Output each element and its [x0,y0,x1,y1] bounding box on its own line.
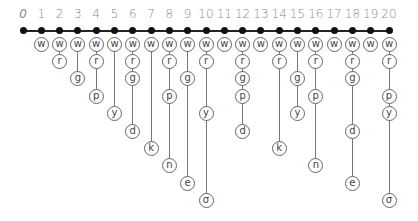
tick-label: 17 [324,7,344,21]
tick-dot [312,27,319,34]
letter-bubble: k [272,141,287,156]
letter-bubble: r [52,54,67,69]
letter-bubble: r [345,54,360,69]
tick-dot [166,27,173,34]
letter-bubble: r [89,54,104,69]
letter-bubble: w [125,37,140,52]
letter-bubble: y [107,106,122,121]
tick-dot [367,27,374,34]
letter-bubble: w [217,37,232,52]
letter-bubble: r [199,54,214,69]
column-connector [151,44,152,148]
letter-bubble: w [345,37,360,52]
tick-dot [203,27,210,34]
tick-dot [239,27,246,34]
tick-dot [74,27,81,34]
letter-bubble: r [235,54,250,69]
letter-bubble: w [144,37,159,52]
letter-bubble: d [235,124,250,139]
letter-bubble: d [345,124,360,139]
tick-label: 3 [68,7,88,21]
tick-label: 6 [123,7,143,21]
tick-dot [56,27,63,34]
letter-bubble: e [345,176,360,191]
column-connector [187,44,188,183]
letter-bubble: w [52,37,67,52]
tick-label: 20 [379,7,399,21]
letter-bubble: d [125,124,140,139]
letter-bubble: n [308,158,323,173]
tick-label: 9 [178,7,198,21]
letter-bubble: y [290,106,305,121]
tick-label: 7 [141,7,161,21]
letter-bubble: p [162,89,177,104]
tick-dot [257,27,264,34]
letter-bubble: w [70,37,85,52]
letter-bubble: n [162,158,177,173]
letter-bubble: w [34,37,49,52]
tick-label: 11 [214,7,234,21]
tick-dot [93,27,100,34]
tick-label: 4 [86,7,106,21]
tick-label: 5 [105,7,125,21]
letter-bubble: p [235,89,250,104]
tick-dot [294,27,301,34]
letter-bubble: w [308,37,323,52]
letter-bubble: p [308,89,323,104]
letter-bubble: r [125,54,140,69]
letter-bubble: y [382,106,397,121]
tick-dot [221,27,228,34]
tick-label: 14 [269,7,289,21]
letter-bubble: w [89,37,104,52]
tick-dot [386,27,393,34]
letter-bubble: p [382,89,397,104]
letter-bubble: w [327,37,342,52]
letter-bubble: k [144,141,159,156]
letter-bubble: w [382,37,397,52]
column-connector [114,44,115,114]
tick-label: 16 [306,7,326,21]
letter-bubble: w [272,37,287,52]
letter-bubble: w [235,37,250,52]
letter-bubble: r [272,54,287,69]
letter-bubble: g [180,71,195,86]
tick-dot [20,27,27,34]
letter-bubble: r [308,54,323,69]
number-line-diagram: 01234567891011121314151617181920wwrwgwrp… [0,0,418,221]
tick-label: 12 [233,7,253,21]
tick-label: 2 [50,7,70,21]
tick-dot [276,27,283,34]
letter-bubble: w [363,37,378,52]
letter-bubble: w [180,37,195,52]
letter-bubble: g [235,71,250,86]
tick-dot [148,27,155,34]
letter-bubble: p [89,89,104,104]
letter-bubble: r [162,54,177,69]
tick-dot [331,27,338,34]
letter-bubble: r [382,54,397,69]
tick-label: 19 [361,7,381,21]
tick-label: 8 [159,7,179,21]
tick-label: 10 [196,7,216,21]
tick-dot [111,27,118,34]
tick-dot [184,27,191,34]
letter-bubble: g [70,71,85,86]
tick-label: 18 [342,7,362,21]
letter-bubble: g [345,71,360,86]
tick-dot [349,27,356,34]
tick-label: 0 [13,7,33,21]
letter-bubble: w [199,37,214,52]
letter-bubble: g [290,71,305,86]
letter-bubble: w [107,37,122,52]
tick-label: 1 [31,7,51,21]
letter-bubble: g [125,71,140,86]
tick-dot [38,27,45,34]
letter-bubble: e [180,176,195,191]
letter-bubble: w [290,37,305,52]
tick-label: 15 [288,7,308,21]
letter-bubble: σ [382,193,397,208]
letter-bubble: y [199,106,214,121]
letter-bubble: w [162,37,177,52]
letter-bubble: w [253,37,268,52]
tick-dot [129,27,136,34]
